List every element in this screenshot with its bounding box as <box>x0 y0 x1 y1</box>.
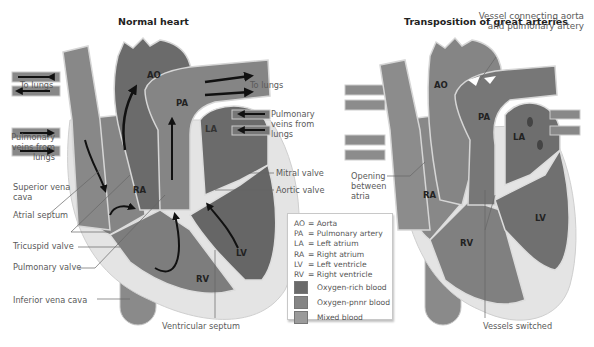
legend-oxygen-poor: Oxygen-pnnr blood <box>288 295 392 310</box>
label-inferior-vena-cava: Inferior vena cava <box>13 295 87 305</box>
label-mitral-valve: Mitral valve <box>276 168 324 178</box>
legend-abbr-la: LA= Left atrium <box>288 239 392 249</box>
legend-mixed: Mixed blood <box>288 310 392 325</box>
label-pulmonary-veins-right: Pulmonary veins from lungs <box>271 109 315 139</box>
legend-oxygen-rich: Oxygen-rich blood <box>288 280 392 295</box>
label-pulmonary-valve: Pulmonary valve <box>13 262 81 272</box>
normal-heart-title: Normal heart <box>118 16 189 27</box>
label-aortic-valve: Aortic valve <box>276 185 324 195</box>
tga-label-pa: PA <box>478 112 490 122</box>
label-to-lungs-right: To lungs <box>250 80 283 90</box>
label-vessels-switched: Vessels switched <box>483 321 552 331</box>
tga-label-ra: RA <box>423 190 436 200</box>
label-ao: AO <box>147 70 161 80</box>
label-pulmonary-veins-left: Pulmonary veins from lungs <box>11 132 55 162</box>
label-to-lungs-left: To lungs <box>20 80 53 90</box>
label-ventricular-septum: Ventricular septum <box>162 321 240 331</box>
legend-abbr-rv: RV= Right ventricle <box>288 270 392 280</box>
legend-abbr-lv: LV= Left ventricle <box>288 260 392 270</box>
tga-label-ao: AO <box>434 80 448 90</box>
label-lv: LV <box>236 248 247 258</box>
swatch-oxygen-rich <box>294 281 308 294</box>
label-vessel-connecting: Vessel connecting aorta and pulmonary ar… <box>479 11 584 31</box>
tga-label-rv: RV <box>460 238 473 248</box>
swatch-oxygen-poor <box>294 296 308 309</box>
label-ra: RA <box>133 185 146 195</box>
legend-abbr-pa: PA= Pulmonary artery <box>288 229 392 239</box>
tga-label-la: LA <box>513 132 525 142</box>
legend-abbr-ra: RA= Right atrium <box>288 250 392 260</box>
label-superior-vena-cava: Superior vena cava <box>13 182 70 202</box>
tga-label-lv: LV <box>535 213 546 223</box>
label-la: LA <box>205 124 217 134</box>
legend-abbr-ao: AO= Aorta <box>288 219 392 229</box>
label-pa: PA <box>176 98 188 108</box>
label-tricuspid-valve: Tricuspid valve <box>13 241 74 251</box>
label-opening-between-atria: Opening between atria <box>351 171 386 201</box>
label-rv: RV <box>196 274 209 284</box>
label-atrial-septum: Atrial septum <box>13 210 68 220</box>
legend: AO= Aorta PA= Pulmonary artery LA= Left … <box>287 213 393 320</box>
swatch-mixed <box>294 311 308 324</box>
